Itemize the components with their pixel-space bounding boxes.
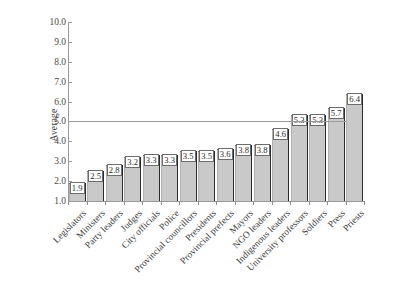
x-tick-mark <box>179 201 180 205</box>
bar-value-label: 3.3 <box>162 154 177 166</box>
x-tick-mark <box>124 201 125 205</box>
bar-value-label: 1.9 <box>70 182 85 194</box>
x-tick-mark <box>309 201 310 205</box>
x-tick-mark <box>161 201 162 205</box>
x-tick-mark <box>87 201 88 205</box>
bar-value-label: 2.5 <box>88 170 103 182</box>
bar-value-label: 3.2 <box>125 156 140 168</box>
x-tick-mark <box>253 201 254 205</box>
y-tick-label: 7.0 <box>22 77 66 87</box>
y-tick-label: 5.0 <box>22 116 66 126</box>
x-tick-mark <box>272 201 273 205</box>
y-axis-tick-labels: 10.09.08.07.06.05.04.03.02.01.0 <box>20 0 66 290</box>
bar-chart: Average 10.09.08.07.06.05.04.03.02.01.0 … <box>0 0 406 290</box>
y-tick-label: 2.0 <box>22 176 66 186</box>
bar-value-label: 3.5 <box>199 150 214 162</box>
bar-value-label: 3.3 <box>144 154 159 166</box>
x-tick-mark <box>327 201 328 205</box>
x-tick-mark <box>216 201 217 205</box>
y-tick-label: 4.0 <box>22 136 66 146</box>
bar-value-label: 3.8 <box>236 144 251 156</box>
y-tick-label: 3.0 <box>22 156 66 166</box>
bar-value-label: 2.8 <box>107 164 122 176</box>
x-tick-mark <box>68 201 69 205</box>
x-tick-mark <box>290 201 291 205</box>
x-tick-mark <box>142 201 143 205</box>
x-tick-mark <box>346 201 347 205</box>
bar <box>346 94 363 201</box>
y-tick-label: 6.0 <box>22 97 66 107</box>
bar-value-label: 6.4 <box>347 93 362 105</box>
x-tick-mark <box>364 201 365 205</box>
bar-value-label: 5.7 <box>329 107 344 119</box>
bar-value-label: 3.8 <box>255 144 270 156</box>
x-tick-mark <box>105 201 106 205</box>
bar-value-label: 4.6 <box>273 128 288 140</box>
y-tick-label: 10.0 <box>22 17 66 27</box>
bar-value-label: 3.6 <box>218 148 233 160</box>
y-tick-label: 9.0 <box>22 37 66 47</box>
plot-area: 1.92.52.83.23.33.33.53.53.63.83.84.65.35… <box>68 22 364 201</box>
bar-value-label: 3.5 <box>181 150 196 162</box>
bar <box>291 115 308 201</box>
bar <box>309 115 326 201</box>
reference-line-5 <box>68 121 346 122</box>
x-tick-mark <box>235 201 236 205</box>
x-tick-mark <box>198 201 199 205</box>
y-tick-label: 1.0 <box>22 196 66 206</box>
y-tick-label: 8.0 <box>22 57 66 67</box>
